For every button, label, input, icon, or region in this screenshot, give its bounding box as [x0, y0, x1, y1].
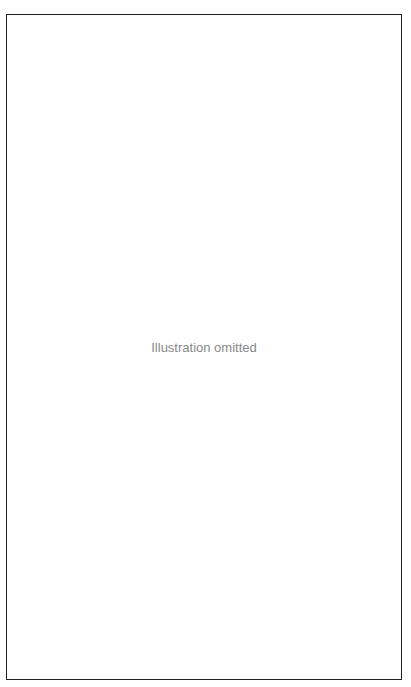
illustration-frame: Illustration omitted [6, 14, 402, 680]
placeholder-note: Illustration omitted [7, 340, 401, 355]
page: Illustration omitted [0, 0, 411, 687]
